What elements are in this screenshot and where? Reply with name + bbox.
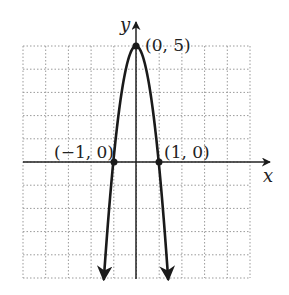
x-axis-label: x	[263, 165, 273, 186]
vertex-point	[133, 43, 140, 50]
right-intercept-label: (1, 0)	[164, 142, 210, 162]
left-intercept-label: (−1, 0)	[54, 142, 114, 162]
right-intercept-point	[156, 159, 163, 166]
y-axis-label: y	[119, 14, 131, 35]
vertex-label: (0, 5)	[145, 35, 191, 55]
graph: y x (0, 5) (−1, 0) (1, 0)	[0, 0, 289, 295]
